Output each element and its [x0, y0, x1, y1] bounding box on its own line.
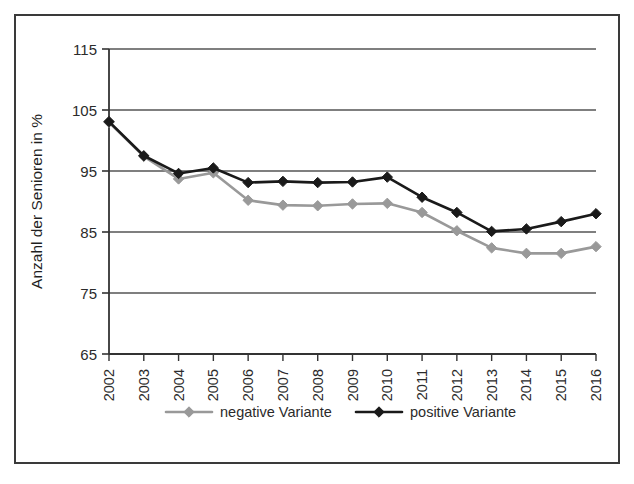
data-point-marker	[556, 248, 566, 258]
data-point-marker	[417, 192, 427, 202]
x-axis-tick-label: 2014	[518, 369, 534, 401]
data-point-marker	[347, 199, 357, 209]
data-point-marker	[452, 207, 462, 217]
data-point-marker	[278, 200, 288, 210]
data-point-marker	[417, 207, 427, 217]
y-axis-tick-label: 115	[73, 41, 97, 58]
x-axis-tick-label: 2008	[310, 369, 326, 401]
data-point-marker	[313, 177, 323, 187]
data-point-marker	[382, 198, 392, 208]
legend-item-label: positive Variante	[410, 404, 516, 420]
x-axis-tick-label: 2011	[414, 369, 430, 400]
legend-marker-swatch	[374, 407, 384, 417]
y-axis-tick-label: 95	[80, 163, 97, 180]
x-axis-tick-label: 2015	[553, 369, 569, 401]
data-point-marker	[486, 243, 496, 253]
x-axis-tick-label: 2006	[240, 369, 256, 401]
data-point-marker	[382, 172, 392, 182]
data-point-marker	[556, 216, 566, 226]
data-point-marker	[486, 226, 496, 236]
data-point-marker	[521, 248, 531, 258]
x-axis-tick-label: 2013	[484, 369, 500, 401]
data-point-marker	[591, 209, 601, 219]
data-point-marker	[591, 241, 601, 251]
y-axis-title: Anzahl der Senioren in %	[28, 114, 45, 289]
data-point-marker	[278, 176, 288, 186]
x-axis-tick-label: 2016	[588, 369, 604, 401]
x-axis-tick-label: 2010	[379, 369, 395, 401]
data-point-marker	[243, 177, 253, 187]
legend-marker-swatch	[184, 407, 194, 417]
y-axis-tick-label: 85	[80, 224, 97, 241]
data-point-marker	[452, 226, 462, 236]
x-axis-tick-label: 2012	[449, 369, 465, 401]
data-point-marker	[313, 201, 323, 211]
line-chart: 6575859510511520022003200420052006200720…	[16, 16, 618, 462]
x-axis-tick-label: 2004	[171, 369, 187, 401]
y-axis-tick-label: 105	[72, 102, 97, 119]
y-axis-tick-label: 75	[80, 285, 97, 302]
x-axis-tick-label: 2005	[205, 369, 221, 401]
chart-figure: 6575859510511520022003200420052006200720…	[14, 14, 620, 464]
legend-item-label: negative Variante	[220, 404, 332, 420]
x-axis-tick-label: 2003	[136, 369, 152, 401]
y-axis-tick-label: 65	[80, 346, 97, 363]
x-axis-tick-label: 2009	[345, 369, 361, 401]
x-axis-tick-label: 2002	[101, 369, 117, 401]
data-point-marker	[347, 177, 357, 187]
x-axis-tick-label: 2007	[275, 369, 291, 401]
